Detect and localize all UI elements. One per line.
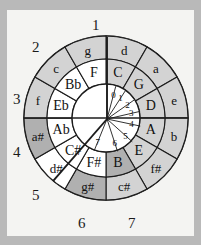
- region-marker-4: 4: [13, 145, 21, 160]
- region-marker-5: 5: [32, 188, 40, 203]
- region-marker-1: 1: [92, 18, 100, 33]
- region-marker-2: 2: [32, 40, 40, 55]
- circle-of-fifths-svg: [0, 0, 201, 245]
- diagram-root: daebf#c#g#d#a#fcgCGDAEBF#C#AbEbBbF012345…: [0, 0, 201, 245]
- region-marker-7: 7: [128, 216, 136, 231]
- region-marker-6: 6: [78, 216, 86, 231]
- region-marker-3: 3: [13, 92, 21, 107]
